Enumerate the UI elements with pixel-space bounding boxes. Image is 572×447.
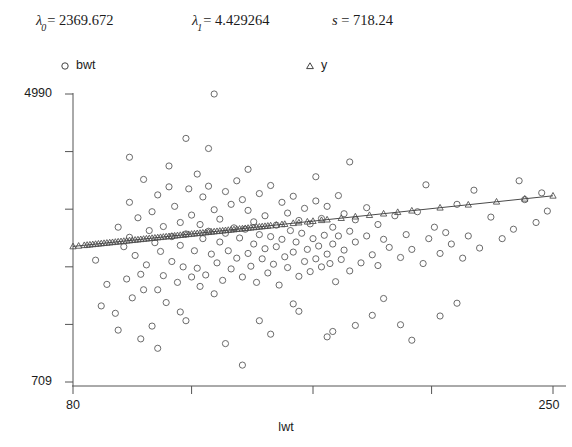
- data-point-bwt: [290, 193, 296, 199]
- data-point-bwt: [330, 224, 336, 230]
- data-point-bwt: [104, 281, 110, 287]
- data-point-bwt: [352, 322, 358, 328]
- data-point-bwt: [299, 230, 305, 236]
- data-point-bwt: [146, 227, 152, 233]
- data-point-bwt: [375, 262, 381, 268]
- data-point-bwt: [268, 331, 274, 337]
- data-point-bwt: [437, 313, 443, 319]
- data-point-bwt: [188, 212, 194, 218]
- data-point-bwt: [177, 219, 183, 225]
- data-point-bwt: [220, 277, 226, 283]
- data-point-bwt: [313, 198, 319, 204]
- data-point-bwt: [324, 334, 330, 340]
- data-point-bwt: [200, 194, 206, 200]
- data-point-bwt: [316, 243, 322, 249]
- data-point-bwt: [284, 264, 290, 270]
- data-point-bwt: [301, 258, 307, 264]
- data-point-bwt: [239, 362, 245, 368]
- data-point-bwt: [121, 244, 127, 250]
- data-point-bwt: [321, 232, 327, 238]
- data-point-bwt: [228, 266, 234, 272]
- data-point-bwt: [126, 199, 132, 205]
- data-point-bwt: [98, 303, 104, 309]
- data-point-bwt: [335, 192, 341, 198]
- data-point-bwt: [352, 239, 358, 245]
- data-point-bwt: [172, 203, 178, 209]
- data-point-bwt: [211, 291, 217, 297]
- data-point-bwt: [397, 254, 403, 260]
- data-point-bwt: [324, 251, 330, 257]
- data-point-bwt: [397, 322, 403, 328]
- data-point-bwt: [279, 199, 285, 205]
- data-point-bwt: [217, 216, 223, 222]
- scatter-plot-figure: λ0= 2369.672 λ1= 4.429264 s = 718.24 bwt…: [0, 0, 572, 447]
- data-point-bwt: [380, 236, 386, 242]
- data-point-bwt: [304, 246, 310, 252]
- data-point-bwt: [454, 300, 460, 306]
- data-point-bwt: [332, 279, 338, 285]
- data-point-bwt: [155, 192, 161, 198]
- data-point-bwt: [409, 337, 415, 343]
- data-point-bwt: [268, 182, 274, 188]
- data-point-bwt: [183, 135, 189, 141]
- data-point-bwt: [533, 219, 539, 225]
- data-point-bwt: [259, 256, 265, 262]
- data-point-bwt: [324, 203, 330, 209]
- data-point-bwt: [330, 241, 336, 247]
- data-point-bwt: [169, 258, 175, 264]
- data-point-bwt: [140, 287, 146, 293]
- data-point-bwt: [448, 241, 454, 247]
- data-point-bwt: [409, 246, 415, 252]
- data-point-y: [550, 192, 556, 198]
- data-point-bwt: [211, 91, 217, 97]
- data-point-bwt: [369, 252, 375, 258]
- data-point-bwt: [205, 145, 211, 151]
- data-point-bwt: [155, 287, 161, 293]
- data-point-bwt: [197, 283, 203, 289]
- data-point-bwt: [197, 221, 203, 227]
- data-point-bwt: [426, 236, 432, 242]
- data-point-bwt: [375, 221, 381, 227]
- data-point-bwt: [476, 245, 482, 251]
- data-point-bwt: [347, 228, 353, 234]
- data-point-bwt: [191, 248, 197, 254]
- data-point-bwt: [166, 184, 172, 190]
- data-point-bwt: [236, 235, 242, 241]
- data-point-bwt: [465, 233, 471, 239]
- data-point-bwt: [358, 260, 364, 266]
- data-point-bwt: [499, 236, 505, 242]
- data-point-bwt: [423, 182, 429, 188]
- data-point-bwt: [293, 239, 299, 245]
- data-point-bwt: [341, 247, 347, 253]
- data-point-bwt: [112, 310, 118, 316]
- data-point-bwt: [245, 207, 251, 213]
- data-point-bwt: [188, 274, 194, 280]
- data-point-bwt: [256, 318, 262, 324]
- data-point-bwt: [488, 214, 494, 220]
- data-point-bwt: [92, 257, 98, 263]
- data-point-bwt: [251, 241, 257, 247]
- data-point-bwt: [222, 340, 228, 346]
- data-point-bwt: [245, 250, 251, 256]
- plot-canvas: [0, 0, 572, 447]
- data-point-bwt: [203, 272, 209, 278]
- data-point-bwt: [234, 178, 240, 184]
- data-point-bwt: [287, 227, 293, 233]
- data-point-bwt: [471, 187, 477, 193]
- data-point-bwt: [256, 232, 262, 238]
- data-point-bwt: [115, 224, 121, 230]
- data-point-bwt: [539, 190, 545, 196]
- data-point-bwt: [347, 159, 353, 165]
- data-point-bwt: [431, 224, 437, 230]
- data-point-bwt: [290, 301, 296, 307]
- data-point-bwt: [160, 273, 166, 279]
- data-point-bwt: [214, 260, 220, 266]
- data-point-bwt: [282, 254, 288, 260]
- data-point-bwt: [296, 273, 302, 279]
- data-point-bwt: [234, 255, 240, 261]
- data-point-bwt: [205, 183, 211, 189]
- data-point-bwt: [149, 323, 155, 329]
- data-point-bwt: [256, 190, 262, 196]
- data-point-bwt: [143, 262, 149, 268]
- data-point-bwt: [364, 205, 370, 211]
